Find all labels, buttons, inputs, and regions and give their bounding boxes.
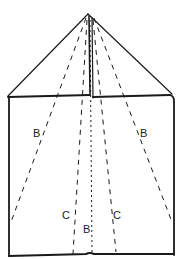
- fold-line-b-center: [90, 20, 92, 252]
- label-b-right: B: [140, 127, 147, 139]
- fold-line-b-left: [11, 18, 86, 222]
- label-c-left: C: [62, 209, 70, 221]
- folding-diagram: B B C C B: [0, 0, 180, 259]
- label-b-left: B: [33, 127, 40, 139]
- label-c-right: C: [113, 209, 121, 221]
- label-b-center: B: [83, 223, 90, 235]
- fold-line-b-right: [94, 18, 172, 222]
- fold-line-c-left: [73, 20, 87, 254]
